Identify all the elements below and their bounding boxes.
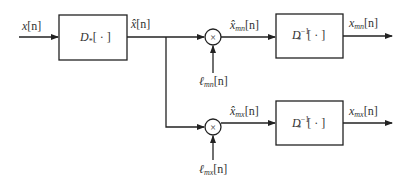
product-mn-label: x̂mn[n] bbox=[229, 18, 259, 33]
input-signal: x[n] bbox=[19, 19, 58, 37]
block-diagram: x[n] D*[ · ] x̂[n] × ℓmn[n] x̂mn[n] D−1*… bbox=[0, 0, 411, 184]
gain-mx-label: ℓmx[n] bbox=[199, 162, 227, 177]
forward-transform-block: D*[ · ] bbox=[59, 15, 127, 60]
branch-mn: × ℓmn[n] x̂mn[n] D−1*[ · ] xmn[n] bbox=[199, 14, 392, 89]
product-mx-label: x̂mx[n] bbox=[229, 104, 259, 119]
intermediate-signal: x̂[n] bbox=[127, 17, 204, 127]
multiply-icon: × bbox=[210, 32, 216, 43]
intermediate-label: x̂[n] bbox=[130, 17, 150, 31]
forward-block-label: D*[ · ] bbox=[79, 30, 111, 46]
multiply-icon: × bbox=[210, 122, 216, 133]
output-mx-label: xmx[n] bbox=[348, 104, 378, 119]
gain-mn-label: ℓmn[n] bbox=[199, 74, 228, 89]
output-mn-label: xmn[n] bbox=[348, 16, 378, 31]
input-label: x[n] bbox=[21, 19, 41, 33]
branch-mx: × ℓmx[n] x̂mx[n] D−1*[ · ] xmx[n] bbox=[199, 101, 392, 177]
